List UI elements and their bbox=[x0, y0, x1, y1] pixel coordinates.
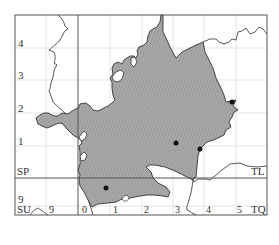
bottom-label: 2 bbox=[144, 204, 149, 215]
bottom-label: 1 bbox=[113, 204, 118, 215]
grid-square-tq: TQ bbox=[251, 203, 266, 215]
left-label: 4 bbox=[18, 37, 24, 49]
south-river-line bbox=[187, 180, 196, 215]
grid-square-su: SU bbox=[17, 203, 31, 215]
grid-square-tl: TL bbox=[251, 165, 265, 177]
bottom-label: 0 bbox=[82, 204, 87, 215]
bottom-label: 9 bbox=[49, 204, 54, 215]
record-dot bbox=[174, 141, 179, 146]
record-dot bbox=[104, 186, 109, 191]
distribution-map: 4 3 2 1 9 SP TL SU TQ 9 0 1 2 3 4 5 bbox=[0, 0, 279, 245]
su-coast-line bbox=[30, 208, 48, 215]
northeast-boundary-line bbox=[203, 27, 267, 44]
record-dot bbox=[198, 147, 203, 152]
left-label: 1 bbox=[18, 135, 24, 147]
left-label: 3 bbox=[18, 69, 24, 81]
bottom-label: 3 bbox=[175, 204, 180, 215]
bottom-label: 5 bbox=[237, 204, 242, 215]
grid-square-sp: SP bbox=[17, 165, 29, 177]
bottom-label: 4 bbox=[206, 204, 211, 215]
record-dot bbox=[230, 100, 235, 105]
left-label: 2 bbox=[18, 102, 24, 114]
